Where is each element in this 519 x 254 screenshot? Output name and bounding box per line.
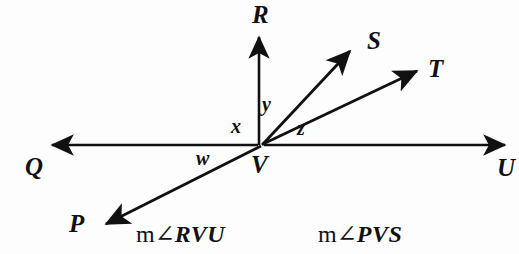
expression-m-angle-RVU: m∠RVU bbox=[136, 222, 225, 246]
point-label-U: U bbox=[497, 155, 515, 180]
angle-label-y: y bbox=[262, 94, 271, 114]
ray-VP-segment bbox=[106, 146, 261, 224]
angle-symbol-pvs: ∠ bbox=[337, 221, 357, 247]
point-label-T: T bbox=[428, 56, 443, 81]
point-label-S: S bbox=[367, 28, 381, 53]
point-label-V: V bbox=[251, 152, 268, 177]
angle-symbol-rvu: ∠ bbox=[155, 221, 175, 247]
expression-m-angle-PVS: m∠PVS bbox=[318, 222, 402, 246]
angle-label-z: z bbox=[297, 118, 305, 138]
point-label-P: P bbox=[69, 211, 84, 236]
m-prefix-rvu: m bbox=[136, 221, 155, 247]
angle-label-x: x bbox=[231, 116, 241, 136]
m-prefix-pvs: m bbox=[318, 221, 337, 247]
point-label-Q: Q bbox=[25, 154, 43, 179]
ray-VS-segment bbox=[262, 51, 350, 145]
angle-label-w: w bbox=[196, 148, 209, 168]
ray-VT-segment bbox=[263, 71, 417, 144]
geometry-figure: R S T U Q P V x y z w m∠RVU m∠PVS bbox=[0, 0, 519, 254]
angle-points-pvs: PVS bbox=[357, 221, 403, 247]
point-label-R: R bbox=[252, 2, 269, 27]
angle-points-rvu: RVU bbox=[175, 221, 225, 247]
